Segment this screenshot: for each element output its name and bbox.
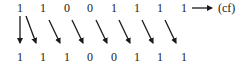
shift-arrow-icon: [142, 20, 153, 43]
arrows: [0, 0, 243, 66]
bottom-bit-4: 0: [109, 51, 119, 63]
shift-arrow-icon: [26, 16, 36, 43]
bottom-bit-7: 1: [179, 51, 189, 63]
bottom-bit-6: 1: [155, 51, 165, 63]
shift-arrow-icon: [72, 20, 83, 43]
bottom-bit-2: 1: [62, 51, 72, 63]
bottom-bit-3: 0: [85, 51, 95, 63]
bottom-bit-0: 1: [15, 51, 25, 63]
shift-arrow-icon: [49, 20, 60, 43]
bottom-bit-1: 1: [38, 51, 48, 63]
bottom-bit-5: 1: [132, 51, 142, 63]
shift-arrow-icon: [165, 20, 176, 43]
shift-arrow-icon: [96, 20, 107, 43]
shift-arrow-icon: [119, 20, 130, 43]
